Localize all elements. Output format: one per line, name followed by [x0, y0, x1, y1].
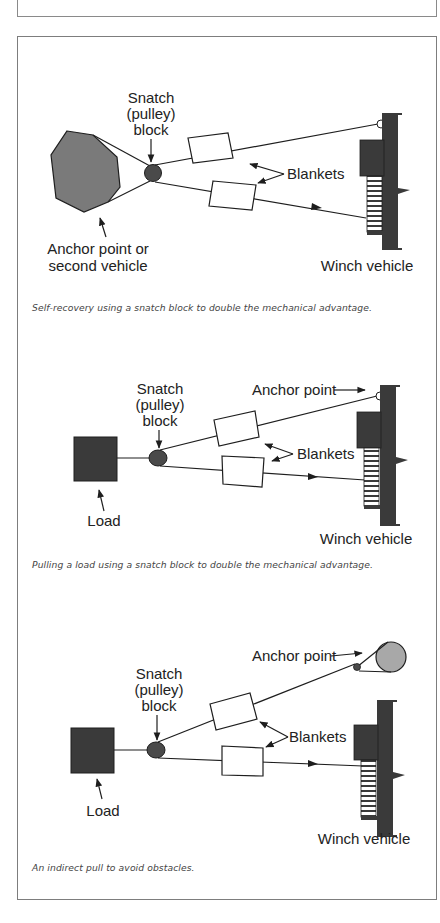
anchor-point-label: Anchor point — [252, 647, 337, 664]
blankets-label: Blankets — [289, 728, 347, 745]
blanket-lower — [209, 181, 256, 210]
anchor-label-line2: second vehicle — [48, 257, 147, 274]
anchor-point-label: Anchor point — [252, 381, 337, 398]
snatch-block-diagrams: Snatch (pulley) block Blankets Anchor po… — [0, 0, 440, 923]
snatch-label-line2: (pulley) — [126, 105, 175, 122]
load-label: Load — [86, 802, 119, 819]
figure-2-caption: Pulling a load using a snatch block to d… — [32, 559, 373, 570]
blankets-label: Blankets — [297, 445, 355, 462]
figure-2-pulling-load: Snatch (pulley) block Anchor point Blank… — [74, 380, 412, 547]
blanket-lower — [222, 456, 264, 487]
snatch-block-icon — [147, 742, 165, 758]
blanket-upper — [188, 133, 233, 163]
snatch-label-line1: Snatch — [137, 380, 184, 397]
snatch-label-line1: Snatch — [128, 89, 175, 106]
load-box — [71, 728, 114, 773]
winch-vehicle-label: Winch vehicle — [321, 257, 414, 274]
figure-3-caption: An indirect pull to avoid obstacles. — [32, 862, 195, 873]
load-label: Load — [87, 512, 120, 529]
figure-3-indirect-pull: Snatch (pulley) block Anchor point Blank… — [71, 642, 410, 847]
snatch-label-line2: (pulley) — [135, 396, 184, 413]
winch-vehicle-label: Winch vehicle — [320, 530, 413, 547]
anchor-label-line1: Anchor point or — [47, 240, 149, 257]
winch-vehicle — [354, 700, 405, 837]
snatch-label-line3: block — [142, 412, 178, 429]
snatch-label-line3: block — [133, 121, 169, 138]
winch-vehicle-label: Winch vehicle — [318, 830, 411, 847]
snatch-label-line1: Snatch — [136, 665, 183, 682]
winch-vehicle — [357, 385, 408, 526]
figure-1-caption: Self-recovery using a snatch block to do… — [32, 302, 372, 313]
tree-anchor — [354, 642, 407, 672]
snatch-block-icon — [149, 450, 167, 466]
load-box — [74, 437, 117, 481]
blanket-upper — [210, 693, 257, 730]
anchor-vehicle-shape — [51, 131, 120, 212]
figure-1-self-recovery: Snatch (pulley) block Blankets Anchor po… — [47, 89, 413, 274]
blanket-upper — [214, 411, 259, 446]
blankets-label: Blankets — [287, 165, 345, 182]
snatch-block-icon — [145, 165, 162, 182]
snatch-label-line2: (pulley) — [134, 681, 183, 698]
snatch-label-line3: block — [141, 697, 177, 714]
blanket-lower — [222, 746, 263, 776]
winch-vehicle — [360, 113, 410, 250]
